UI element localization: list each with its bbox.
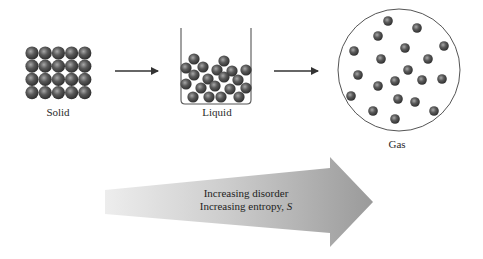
- gas-particle: [383, 16, 393, 26]
- liquid-particle: [180, 78, 191, 89]
- solid-particle: [39, 86, 52, 99]
- solid-particle: [52, 46, 65, 59]
- liquid-particle: [195, 82, 206, 93]
- solid-particle: [78, 60, 91, 73]
- gas-particle: [376, 54, 386, 64]
- solid-particle: [25, 60, 38, 73]
- entropy-line-1: Increasing disorder: [204, 187, 289, 199]
- solid-particle: [65, 60, 78, 73]
- liquid-particle: [209, 80, 220, 91]
- solid-particle: [39, 46, 52, 59]
- gas-particle: [423, 54, 433, 64]
- gas-particle: [439, 41, 449, 51]
- liquid-particle: [240, 64, 251, 75]
- liquid-particle: [187, 91, 198, 102]
- solid-particle: [65, 46, 78, 59]
- gas-particle: [417, 75, 427, 85]
- entropy-symbol: S: [287, 200, 293, 212]
- solid-particle: [52, 73, 65, 86]
- gas-particle: [403, 65, 413, 75]
- solid-particle: [39, 60, 52, 73]
- liquid-particle: [197, 61, 208, 72]
- gas-particle: [368, 106, 378, 116]
- gas-particle: [346, 91, 356, 101]
- gas-particle: [373, 81, 383, 91]
- gas-particle: [429, 106, 439, 116]
- liquid-particle: [233, 91, 244, 102]
- solid-particle: [25, 73, 38, 86]
- solid-particle: [39, 73, 52, 86]
- liquid-label: Liquid: [202, 106, 232, 118]
- solid-particle: [65, 86, 78, 99]
- gas-particle: [390, 76, 400, 86]
- liquid-particle: [240, 82, 251, 93]
- gas-particle: [353, 70, 363, 80]
- gas-particle: [349, 46, 359, 56]
- liquid-particle: [188, 53, 199, 64]
- solid-particle: [25, 46, 38, 59]
- solid-particle: [78, 73, 91, 86]
- liquid-particle: [232, 74, 243, 85]
- liquid-particle: [218, 71, 229, 82]
- gas-container-icon: [338, 9, 460, 131]
- gas-particle: [373, 31, 383, 41]
- gas-particles: [346, 16, 449, 124]
- liquid-particle: [218, 55, 229, 66]
- liquid-particle: [188, 69, 199, 80]
- solid-particle: [65, 73, 78, 86]
- solid-lattice: [25, 46, 91, 99]
- gas-particle: [437, 74, 447, 84]
- entropy-line-2-text: Increasing entropy,: [200, 200, 287, 212]
- gas-particle: [393, 94, 403, 104]
- entropy-line-2: Increasing entropy, S: [200, 200, 293, 212]
- liquid-particle: [203, 91, 214, 102]
- solid-particle: [52, 60, 65, 73]
- gas-particle: [410, 97, 420, 107]
- gas-particle: [400, 43, 410, 53]
- gas-label: Gas: [388, 138, 405, 150]
- phase-entropy-diagram: Solid Liquid Gas Increasing disorder Inc…: [0, 0, 483, 259]
- solid-label: Solid: [46, 106, 70, 118]
- gas-particle: [412, 23, 422, 33]
- solid-particle: [78, 86, 91, 99]
- gas-particle: [390, 114, 400, 124]
- liquid-particle: [215, 91, 226, 102]
- liquid-particle: [224, 83, 235, 94]
- solid-particle: [78, 46, 91, 59]
- solid-particle: [52, 86, 65, 99]
- solid-particle: [25, 86, 38, 99]
- liquid-particles: [180, 53, 251, 102]
